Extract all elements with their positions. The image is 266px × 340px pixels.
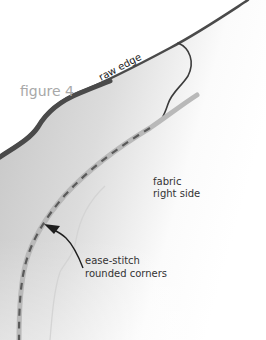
callout-label-line2: rounded corners [85, 268, 167, 279]
callout-label-line1: ease-stitch [85, 255, 140, 266]
sewing-diagram-figure: figure 4 raw edge fabric right side ease… [0, 0, 266, 340]
fabric-label-line2: right side [153, 188, 200, 199]
figure-title: figure 4 [20, 83, 74, 99]
fade-overlay [0, 0, 266, 340]
diagram-canvas: figure 4 raw edge fabric right side ease… [0, 0, 266, 340]
fabric-label-line1: fabric [153, 176, 181, 187]
